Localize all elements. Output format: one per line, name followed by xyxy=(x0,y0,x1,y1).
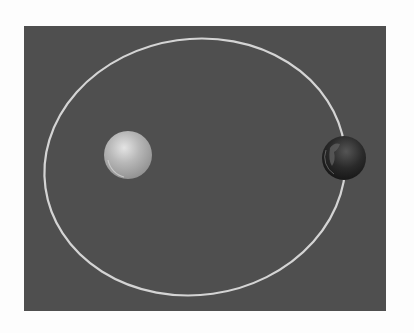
orbit-diagram xyxy=(0,0,414,333)
earth-sphere xyxy=(322,136,366,180)
orbit-path xyxy=(28,19,363,315)
sun-sphere xyxy=(104,131,152,179)
